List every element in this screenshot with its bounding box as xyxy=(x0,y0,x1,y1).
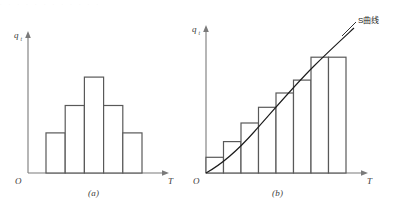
chart-panel-b: S曲线 q t O T xyxy=(188,14,393,204)
s-curve-label: S曲线 xyxy=(358,15,379,25)
bar-b-8 xyxy=(329,57,347,173)
bars-a xyxy=(46,77,142,173)
figure-container: q t O T (a) xyxy=(0,0,393,215)
bar-b-6 xyxy=(294,80,312,173)
bar-a-1 xyxy=(46,133,65,173)
y-axis-b xyxy=(203,25,209,173)
bar-b-2 xyxy=(224,142,242,173)
y-axis-label-sub-a: t xyxy=(21,36,23,42)
chart-panel-a: q t O T xyxy=(0,14,196,204)
origin-label-a: O xyxy=(15,176,22,186)
panel-caption-b: (b) xyxy=(272,188,283,198)
bar-b-7 xyxy=(311,57,329,173)
bar-a-4 xyxy=(104,106,123,174)
bars-b xyxy=(206,57,346,173)
y-axis-label-b: q xyxy=(192,24,197,34)
y-axis-a xyxy=(25,31,31,173)
bar-a-3 xyxy=(84,77,103,173)
y-axis-label-a: q xyxy=(14,30,19,40)
origin-label-b: O xyxy=(193,176,200,186)
x-axis-label-b: T xyxy=(367,176,373,186)
bar-a-5 xyxy=(123,133,142,173)
y-axis-label-sub-b: t xyxy=(199,30,201,36)
bar-a-2 xyxy=(65,106,84,174)
bar-b-1 xyxy=(206,157,224,173)
panel-caption-a: (a) xyxy=(88,188,99,198)
s-curve-leader-line xyxy=(342,22,356,36)
x-axis-label-a: T xyxy=(168,176,174,186)
